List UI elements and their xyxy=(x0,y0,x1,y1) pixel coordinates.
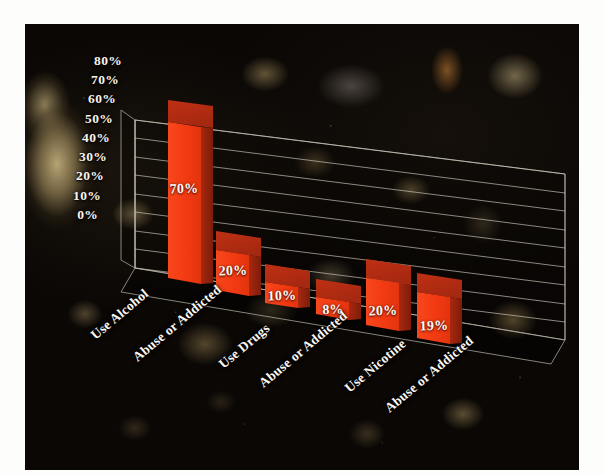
y-tick-70: 70% xyxy=(91,72,119,88)
chart-slide: 80% 70% 60% 50% 40% 30% 20% 10% 0% 70% 2… xyxy=(25,24,579,470)
y-tick-40: 40% xyxy=(82,130,110,146)
bar-1[interactable] xyxy=(168,100,213,284)
y-tick-60: 60% xyxy=(88,91,116,107)
y-tick-0: 0% xyxy=(77,207,98,223)
slide-page: 80% 70% 60% 50% 40% 30% 20% 10% 0% 70% 2… xyxy=(0,0,604,475)
bar-3[interactable] xyxy=(265,264,310,308)
bar-2[interactable] xyxy=(216,231,261,296)
bar-5[interactable] xyxy=(366,259,411,331)
y-tick-30: 30% xyxy=(79,149,107,165)
bar-chart: 80% 70% 60% 50% 40% 30% 20% 10% 0% 70% 2… xyxy=(25,24,579,470)
bar-6[interactable] xyxy=(417,273,462,344)
y-tick-50: 50% xyxy=(85,111,113,127)
y-tick-20: 20% xyxy=(76,168,104,184)
y-axis-labels: 80% 70% 60% 50% 40% 30% 20% 10% 0% xyxy=(25,24,130,470)
y-tick-10: 10% xyxy=(73,188,101,204)
y-tick-80: 80% xyxy=(94,53,122,69)
